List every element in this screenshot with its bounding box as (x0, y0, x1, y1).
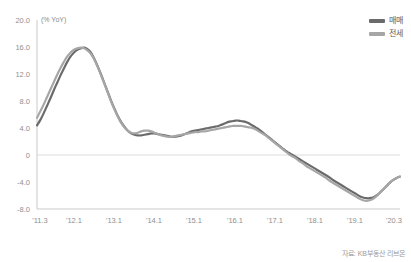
x-tick-label: '17.1 (267, 216, 283, 225)
x-tick-label: '12.1 (66, 216, 82, 225)
legend-swatch-maemae (369, 19, 385, 23)
x-tick-label: '14.1 (146, 216, 162, 225)
x-tick-label: '16.1 (227, 216, 243, 225)
legend-item-jeonse: 전세 (369, 29, 403, 39)
legend-item-maemae: 매매 (369, 16, 403, 26)
series-line-jeonse (37, 48, 400, 201)
x-tick-label: '11.3 (32, 216, 47, 225)
legend-swatch-jeonse (369, 32, 385, 36)
legend-label-jeonse: 전세 (389, 29, 403, 39)
series-layer (37, 48, 400, 201)
x-tick-label: '20.3 (386, 216, 402, 225)
source-note: 자료: KB부동산 리브온 (342, 248, 405, 258)
chart-legend: 매매 전세 (369, 16, 403, 39)
series-line-maemae (37, 48, 400, 199)
x-tick-label: '13.1 (106, 216, 122, 225)
chart-container: (% YoY) 20.0 16.0 12.0 8.0 4.0 0 -4.0 -8… (0, 0, 411, 262)
x-tick-label: '19.1 (347, 216, 363, 225)
legend-label-maemae: 매매 (389, 16, 403, 26)
x-tick-label: '15.1 (186, 216, 202, 225)
x-tick-label: '18.1 (307, 216, 323, 225)
